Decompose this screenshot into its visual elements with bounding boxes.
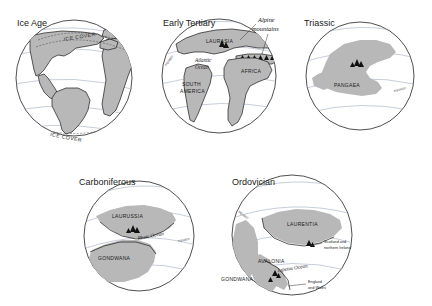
label-laurentia: LAURENTIA	[287, 221, 318, 227]
globe-ordovician: Ordovician LAURENTIA AVALONIA GONDWANA I…	[221, 175, 352, 295]
annot-scotland-line2: northern Ireland	[324, 246, 351, 250]
annot-scotland-line1: Scotland and	[324, 240, 346, 244]
globe-title-ice-age: Ice Age	[17, 18, 47, 28]
label-avalonia: AVALONIA	[258, 258, 285, 264]
landmass-greenland	[102, 28, 122, 39]
globe-title-carboniferous: Carboniferous	[79, 177, 136, 187]
globe-triassic: Triassic PANGAEA equator	[304, 18, 416, 130]
globe-title-triassic: Triassic	[304, 18, 335, 28]
globe-early-tertiary: Early Tertiary LAURASIA Atlantic Ocean A…	[158, 16, 282, 133]
label-laurussia: LAURUSSIA	[112, 213, 143, 219]
callout-alpine-line2: mountains	[252, 25, 279, 32]
globe-title-early-tertiary: Early Tertiary	[163, 18, 216, 28]
label-atlantic-ocean-line2: Ocean	[195, 64, 209, 70]
label-africa: AFRICA	[241, 68, 261, 74]
annot-england-line1: England	[308, 280, 322, 284]
label-atlantic-ocean-line1: Atlantic	[194, 57, 212, 63]
globe-title-ordovician: Ordovician	[232, 177, 275, 187]
label-south-america-line1: SOUTH	[182, 81, 201, 87]
continental-drift-diagram: Ice Age ICE COVER ICE COVER	[0, 0, 432, 306]
label-pangaea: PANGAEA	[334, 82, 360, 88]
globe-carboniferous: Carboniferous LAURUSSIA GONDWANA Rheic O…	[79, 177, 194, 291]
callout-alpine-line1: Alpine	[257, 16, 275, 23]
label-laurasia: LAURASIA	[206, 38, 233, 44]
label-gondwana-ordovician: GONDWANA	[221, 276, 254, 282]
globe-ice-age: Ice Age ICE COVER ICE COVER	[12, 18, 140, 143]
label-gondwana-carboniferous: GONDWANA	[98, 255, 131, 261]
annot-england-line2: and Wales	[308, 286, 326, 290]
label-south-america-line2: AMERICA	[180, 88, 205, 94]
